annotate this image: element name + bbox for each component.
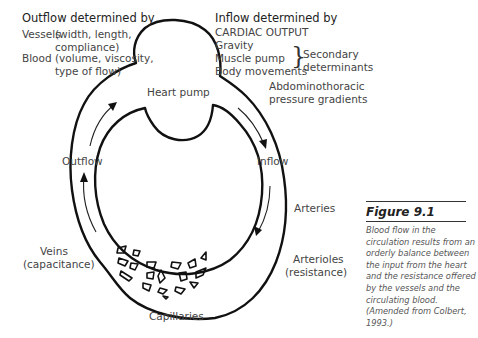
- vessels-detail-1: (width, length,: [55, 28, 132, 41]
- inflow-heading: Inflow determined by: [215, 12, 337, 25]
- secondary-label-1: Secondary: [303, 48, 359, 61]
- figure-title: Figure 9.1: [366, 201, 466, 222]
- outflow-label: Outflow: [62, 155, 103, 168]
- secondary-item-muscle-pump: Muscle pump: [215, 52, 285, 65]
- arrowhead-outflow-lower: [80, 172, 88, 182]
- arteries-label: Arteries: [294, 202, 335, 215]
- arterioles-label-2: (resistance): [285, 266, 347, 279]
- outflow-heading: Outflow determined by: [22, 12, 155, 25]
- blood-detail-2: type of flow): [55, 65, 121, 78]
- abdominothoracic-2: pressure gradients: [269, 93, 367, 106]
- veins-label-1: Veins: [40, 245, 68, 258]
- inflow-label: Inflow: [257, 155, 288, 168]
- blood-detail-1: (volume, viscosity,: [55, 52, 154, 65]
- heart-pump-label: Heart pump: [147, 86, 210, 99]
- arrowhead-inflow-upper: [259, 139, 267, 149]
- inner-vessel-wall: [95, 105, 262, 274]
- cardiac-output: CARDIAC OUTPUT: [215, 26, 308, 39]
- capillaries-label: Capillaries: [149, 310, 204, 323]
- blood-label: Blood: [22, 52, 52, 65]
- arterioles-label-1: Arterioles: [293, 253, 344, 266]
- figure-caption: Blood flow in the circulation results fr…: [366, 225, 478, 329]
- abdominothoracic-1: Abdominothoracic: [269, 80, 365, 93]
- veins-label-2: (capacitance): [23, 258, 95, 271]
- secondary-label-2: determinants: [303, 61, 373, 74]
- secondary-item-gravity: Gravity: [215, 39, 253, 52]
